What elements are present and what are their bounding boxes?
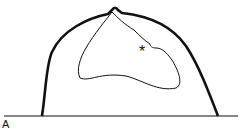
diagram-canvas [0,0,239,129]
inner-contour [78,12,179,89]
asterisk-marker: * [139,44,145,60]
outer-contour [42,8,218,116]
panel-label: A [2,119,9,129]
